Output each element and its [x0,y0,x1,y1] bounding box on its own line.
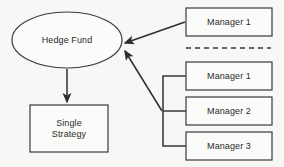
arrow-bracket-to-fund [125,51,162,111]
diagram-canvas: Hedge Fund Single Strategy Manager 1 Man… [0,0,284,167]
manager-2-box [186,97,272,125]
manager-3-box [186,132,272,160]
manager-top-box [186,8,272,36]
single-strategy-box [30,105,108,152]
hedge-fund-ellipse [12,12,122,68]
diagram-vector-layer [0,0,284,167]
arrow-manager-top-to-fund [125,22,185,43]
manager-bracket-connector [163,76,186,146]
manager-1-box [186,62,272,90]
